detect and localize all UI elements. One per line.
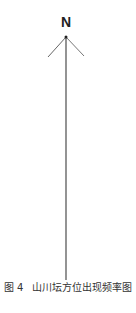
north-arrow-icon xyxy=(0,0,136,313)
figure-caption: 图 4山川坛方位出现频率图 xyxy=(0,281,136,295)
figure-title: 山川坛方位出现频率图 xyxy=(32,282,132,293)
figure-number: 图 4 xyxy=(4,282,24,293)
